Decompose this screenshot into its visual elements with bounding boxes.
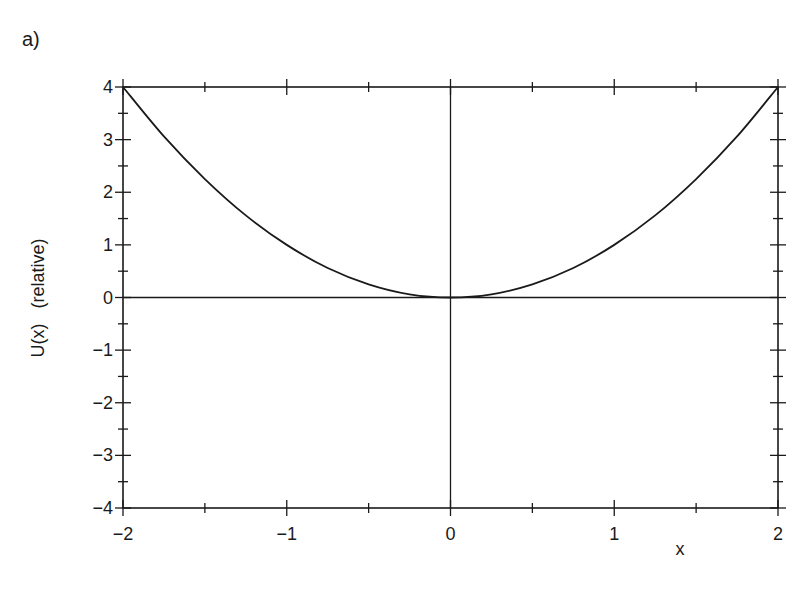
y-tick-label: −4 — [92, 498, 113, 518]
x-tick-label: −2 — [113, 524, 134, 544]
y-axis-label: U(x) (relative) — [28, 238, 48, 357]
y-tick-label: −2 — [92, 393, 113, 413]
x-tick-label: 1 — [609, 524, 619, 544]
potential-chart: −2−1012−4−3−2−101234xU(x) (relative) — [0, 0, 808, 601]
y-tick-label: −1 — [92, 340, 113, 360]
y-tick-label: 0 — [103, 288, 113, 308]
y-tick-label: 3 — [103, 130, 113, 150]
x-tick-label: 0 — [445, 524, 455, 544]
y-tick-label: −3 — [92, 445, 113, 465]
y-tick-label: 2 — [103, 182, 113, 202]
y-tick-label: 1 — [103, 235, 113, 255]
x-tick-label: −1 — [276, 524, 297, 544]
x-axis-label: x — [676, 539, 685, 559]
x-tick-label: 2 — [773, 524, 783, 544]
y-tick-label: 4 — [103, 77, 113, 97]
